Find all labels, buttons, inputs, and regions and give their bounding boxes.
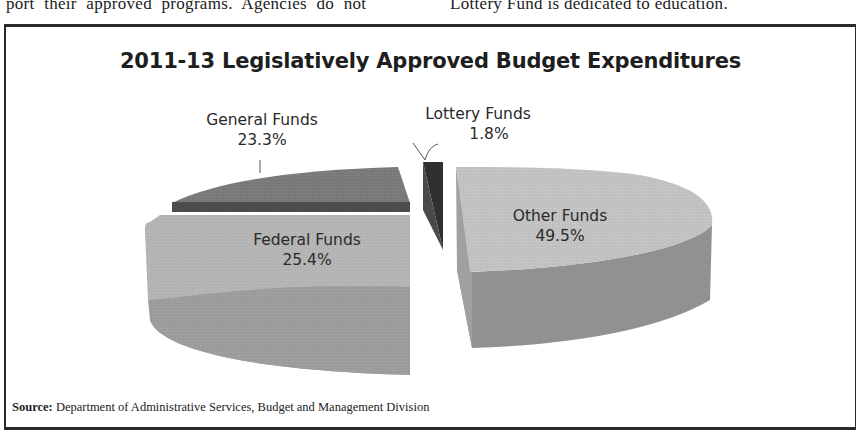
label-lottery-name: Lottery Funds [418, 104, 538, 124]
slice-other-funds [456, 167, 712, 348]
label-federal-name: Federal Funds [237, 230, 377, 250]
label-general-value: 23.3% [192, 130, 332, 150]
pie-chart [0, 0, 858, 438]
label-general-funds: General Funds 23.3% [192, 110, 332, 150]
source-note: Source: Department of Administrative Ser… [12, 400, 429, 415]
label-other-funds: Other Funds 49.5% [490, 206, 630, 246]
label-other-value: 49.5% [490, 226, 630, 246]
slice-general-funds [172, 167, 410, 212]
label-lottery-funds: Lottery Funds 1.8% [418, 104, 538, 144]
label-federal-funds: Federal Funds 25.4% [237, 230, 377, 270]
slice-lottery-funds [413, 143, 443, 250]
label-general-name: General Funds [192, 110, 332, 130]
label-other-name: Other Funds [490, 206, 630, 226]
label-lottery-value: 1.8% [418, 124, 538, 144]
source-label: Source: [12, 400, 53, 414]
source-text: Department of Administrative Services, B… [53, 400, 430, 414]
label-federal-value: 25.4% [237, 250, 377, 270]
